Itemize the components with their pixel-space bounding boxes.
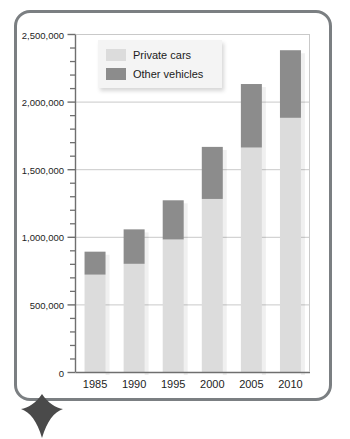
x-axis-tick-label: 1995 [161,378,185,390]
bar-segment-other-vehicles [124,229,145,263]
y-axis-tick-label: 2,500,000 [2,29,64,40]
bar-group [85,50,305,375]
bar-shadow [301,53,305,375]
bar-segment-private-cars [85,275,106,372]
bar-segment-private-cars [202,199,223,372]
bar-segment-private-cars [241,148,262,372]
bar-shadow [184,203,188,375]
bar-segment-other-vehicles [163,200,184,239]
bar-shadow [106,255,110,375]
x-axis-tick-label: 2000 [200,378,224,390]
legend-label-other-vehicles: Other vehicles [133,68,203,80]
x-axis-tick-label: 2010 [278,378,302,390]
gridlines [76,102,311,305]
legend-swatch-other-vehicles [106,68,126,80]
y-axis-tick-label: 0 [2,367,64,378]
bar-segment-other-vehicles [241,84,262,148]
y-axis-tick-label: 500,000 [2,299,64,310]
legend-entry-other-vehicles: Other vehicles [106,64,216,83]
bar-segment-private-cars [163,240,184,372]
bar-chart: 0500,0001,000,0001,500,0002,000,0002,500… [0,0,350,439]
y-axis-major-ticks [68,35,76,373]
bar-shadow [262,87,266,375]
figure-root: 0500,0001,000,0001,500,0002,000,0002,500… [0,0,350,439]
bar-shadow [223,150,227,375]
bar-segment-other-vehicles [85,252,106,275]
bar-segment-other-vehicles [202,147,223,199]
x-axis-tick-label: 1985 [83,378,107,390]
legend-entry-private-cars: Private cars [106,45,216,64]
x-axis-tick-label: 1990 [122,378,146,390]
legend-swatch-private-cars [106,49,126,61]
y-axis-tick-label: 1,000,000 [2,232,64,243]
bar-segment-private-cars [124,264,145,372]
bar-segment-other-vehicles [280,50,301,118]
x-axis-tick-label: 2005 [239,378,263,390]
legend-label-private-cars: Private cars [133,49,191,61]
bar-segment-private-cars [280,118,301,372]
y-axis-minor-ticks [70,48,76,359]
y-axis-tick-label: 2,000,000 [2,97,64,108]
bar-shadow [145,232,149,375]
chart-legend: Private cars Other vehicles [98,40,222,88]
y-axis-tick-label: 1,500,000 [2,164,64,175]
